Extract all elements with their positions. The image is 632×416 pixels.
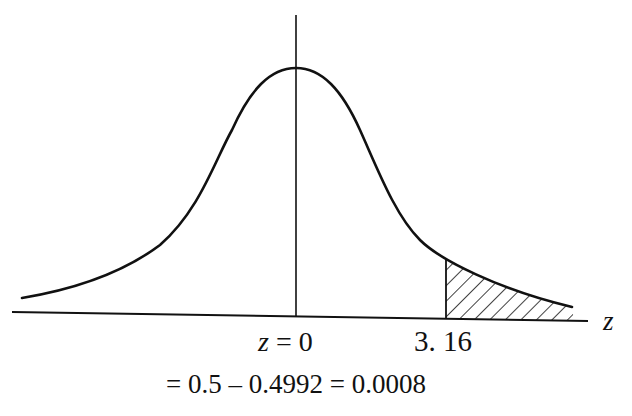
z-axis-label: z [603, 306, 614, 337]
normal-curve-figure [0, 0, 632, 416]
critical-value-label: 3. 16 [414, 325, 472, 358]
zero-tick-equals: = 0 [269, 326, 313, 357]
zero-tick-variable: z [258, 326, 269, 357]
tail-area-equation: = 0.5 – 0.4992 = 0.0008 [166, 369, 426, 400]
normal-curve [22, 68, 572, 307]
zero-tick-label: z = 0 [258, 326, 313, 358]
